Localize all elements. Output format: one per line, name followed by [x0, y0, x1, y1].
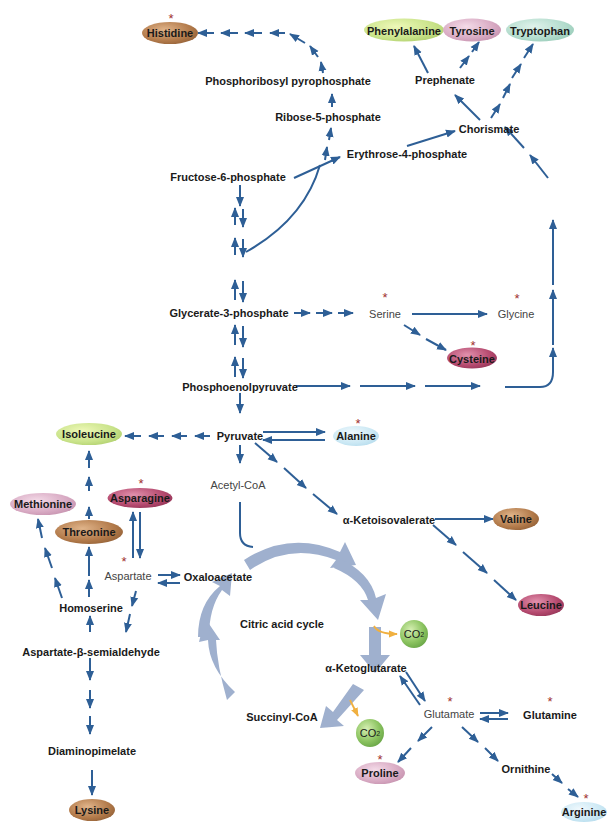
chorismate-label: Chorismate: [459, 124, 520, 135]
ketoglutarate-label: α-Ketoglutarate: [325, 663, 406, 674]
homoserine-label: Homoserine: [59, 603, 123, 614]
tryptophan-label: Tryptophan: [510, 24, 570, 36]
valine-label: Valine: [500, 513, 532, 525]
tryptophan-node: Tryptophan: [506, 19, 574, 42]
tyrosine-label: Tyrosine: [449, 24, 494, 36]
co2-subscript: 2: [376, 730, 380, 737]
alanine-star-icon: *: [355, 417, 360, 430]
glycine-label: Glycine: [498, 309, 535, 320]
citric-acid-cycle-label: Citric acid cycle: [240, 619, 324, 630]
threonine-node: Threonine: [55, 520, 123, 544]
glycine-star-icon: *: [514, 292, 519, 305]
lysine-node: Lysine: [69, 799, 115, 821]
histidine-label: Histidine: [147, 27, 193, 39]
lysine-label: Lysine: [75, 804, 109, 816]
glutamate-label: Glutamate: [424, 709, 475, 720]
serine-star-icon: *: [382, 291, 387, 304]
valine-node: Valine: [493, 508, 539, 530]
proline-label: Proline: [361, 767, 398, 779]
leucine-node: Leucine: [518, 594, 564, 616]
leucine-label: Leucine: [520, 599, 562, 611]
threonine-label: Threonine: [62, 526, 115, 538]
glutamine-label: Glutamine: [523, 710, 577, 721]
co2-subscript: 2: [420, 631, 424, 638]
ornithine-label: Ornithine: [502, 764, 551, 775]
diaminopimelate-label: Diaminopimelate: [48, 746, 136, 757]
asparagine-star-icon: *: [138, 477, 143, 490]
pep-label: Phosphoenolpyruvate: [182, 382, 298, 393]
tyrosine-node: Tyrosine: [443, 19, 501, 42]
co2-bubble-2: CO2: [356, 719, 384, 747]
phenylalanine-node: Phenylalanine: [364, 19, 444, 42]
glutamate-star-icon: *: [447, 695, 452, 708]
oxaloacetate-label: Oxaloacetate: [184, 572, 252, 583]
cysteine-star-icon: *: [470, 339, 475, 352]
cysteine-label: Cysteine: [449, 352, 495, 364]
asa-label: Aspartate-β-semialdehyde: [22, 647, 160, 658]
methionine-label: Methionine: [14, 498, 72, 510]
prpp-label: Phosphoribosyl pyrophosphate: [205, 76, 371, 87]
aspartate-label: Aspartate: [104, 571, 151, 582]
ketoisovalerate-label: α-Ketoisovalerate: [343, 515, 435, 526]
erythrose4p-label: Erythrose-4-phosphate: [347, 149, 467, 160]
co2-bubble-1: CO2: [400, 620, 428, 648]
methionine-node: Methionine: [10, 493, 76, 515]
co2-label: CO: [360, 727, 377, 739]
pyruvate-label: Pyruvate: [217, 431, 263, 442]
acetylcoa-label: Acetyl-CoA: [210, 480, 265, 491]
ribose5p-label: Ribose-5-phosphate: [275, 112, 381, 123]
fructose6p-label: Fructose-6-phosphate: [170, 172, 286, 183]
arginine-star-icon: *: [583, 792, 588, 805]
asparagine-node: Asparagine: [108, 488, 173, 508]
glycerate3p-label: Glycerate-3-phosphate: [169, 308, 288, 319]
alanine-label: Alanine: [336, 430, 376, 442]
glutamine-star-icon: *: [547, 695, 552, 708]
asparagine-label: Asparagine: [110, 492, 170, 504]
arginine-label: Arginine: [562, 806, 607, 818]
isoleucine-node: Isoleucine: [56, 423, 122, 445]
prephenate-label: Prephenate: [415, 75, 475, 86]
proline-star-icon: *: [377, 753, 382, 766]
co2-label: CO: [404, 628, 421, 640]
phenylalanine-label: Phenylalanine: [367, 24, 441, 36]
succinylcoa-label: Succinyl-CoA: [246, 712, 318, 723]
serine-label: Serine: [369, 309, 401, 320]
isoleucine-label: Isoleucine: [62, 428, 116, 440]
histidine-star-icon: *: [168, 12, 173, 25]
aspartate-star-icon: *: [121, 555, 126, 568]
